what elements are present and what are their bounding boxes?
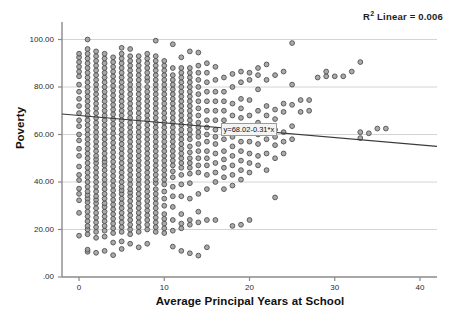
data-point (187, 70, 192, 75)
data-point (222, 75, 227, 80)
data-point (77, 186, 82, 191)
data-point (170, 153, 175, 158)
data-point (153, 191, 158, 196)
data-point (153, 144, 158, 149)
data-point (145, 203, 150, 208)
data-point (187, 108, 192, 113)
data-point (324, 69, 329, 74)
data-point (153, 38, 158, 43)
y-tick-label: 100.00 (10, 35, 54, 44)
data-point (187, 104, 192, 109)
data-point (170, 125, 175, 130)
data-point (187, 75, 192, 80)
data-point (136, 149, 141, 154)
data-point (307, 108, 312, 113)
data-point (128, 149, 133, 154)
data-point (77, 164, 82, 169)
data-point (136, 158, 141, 163)
data-point (119, 247, 124, 252)
data-point (187, 156, 192, 161)
data-point (111, 69, 116, 74)
data-point (281, 139, 286, 144)
data-point (102, 187, 107, 192)
data-point (153, 130, 158, 135)
data-point (102, 118, 107, 123)
data-point (94, 250, 99, 255)
data-point (145, 213, 150, 218)
data-point (85, 180, 90, 185)
data-point (145, 142, 150, 147)
data-point (85, 70, 90, 75)
data-point (153, 77, 158, 82)
data-point (162, 82, 167, 87)
data-point (204, 61, 209, 66)
data-point (119, 123, 124, 128)
data-point (136, 68, 141, 73)
data-point (102, 89, 107, 94)
data-point (204, 218, 209, 223)
data-point (128, 134, 133, 139)
data-point (145, 156, 150, 161)
data-point (187, 144, 192, 149)
data-point (145, 94, 150, 99)
data-point (162, 189, 167, 194)
data-point (153, 149, 158, 154)
data-point (85, 142, 90, 147)
data-point (324, 74, 329, 79)
data-point (77, 191, 82, 196)
data-point (85, 61, 90, 66)
data-point (264, 104, 269, 109)
data-point (204, 163, 209, 168)
data-point (222, 99, 227, 104)
data-point (162, 163, 167, 168)
data-point (187, 113, 192, 118)
data-point (204, 132, 209, 137)
data-point (213, 151, 218, 156)
data-point (111, 188, 116, 193)
data-point (94, 184, 99, 189)
data-point (187, 222, 192, 227)
data-point (128, 92, 133, 97)
data-point (213, 99, 218, 104)
data-point (145, 85, 150, 90)
data-point (170, 82, 175, 87)
data-point (196, 170, 201, 175)
data-point (153, 68, 158, 73)
data-point (111, 164, 116, 169)
data-point (162, 149, 167, 154)
data-point (128, 241, 133, 246)
data-point (102, 70, 107, 75)
data-point (187, 85, 192, 90)
data-point (179, 85, 184, 90)
data-point (85, 214, 90, 219)
data-point (179, 142, 184, 147)
data-point (102, 80, 107, 85)
data-point (94, 49, 99, 54)
data-point (111, 145, 116, 150)
data-point (162, 96, 167, 101)
data-point (136, 111, 141, 116)
data-point (187, 161, 192, 166)
data-point (179, 132, 184, 137)
data-point (94, 106, 99, 111)
x-tick-label: 40 (405, 283, 435, 292)
data-point (136, 220, 141, 225)
data-point (187, 66, 192, 71)
data-point (145, 184, 150, 189)
data-point (94, 180, 99, 185)
data-point (119, 94, 124, 99)
data-point (85, 51, 90, 56)
data-point (77, 210, 82, 215)
data-point (153, 163, 158, 168)
data-point (239, 158, 244, 163)
data-point (119, 45, 124, 50)
data-point (153, 101, 158, 106)
data-point (196, 85, 201, 90)
data-point (153, 125, 158, 130)
data-point (256, 153, 261, 158)
data-point (136, 182, 141, 187)
data-point (196, 130, 201, 135)
data-point (85, 47, 90, 52)
data-point (230, 163, 235, 168)
data-point (102, 182, 107, 187)
